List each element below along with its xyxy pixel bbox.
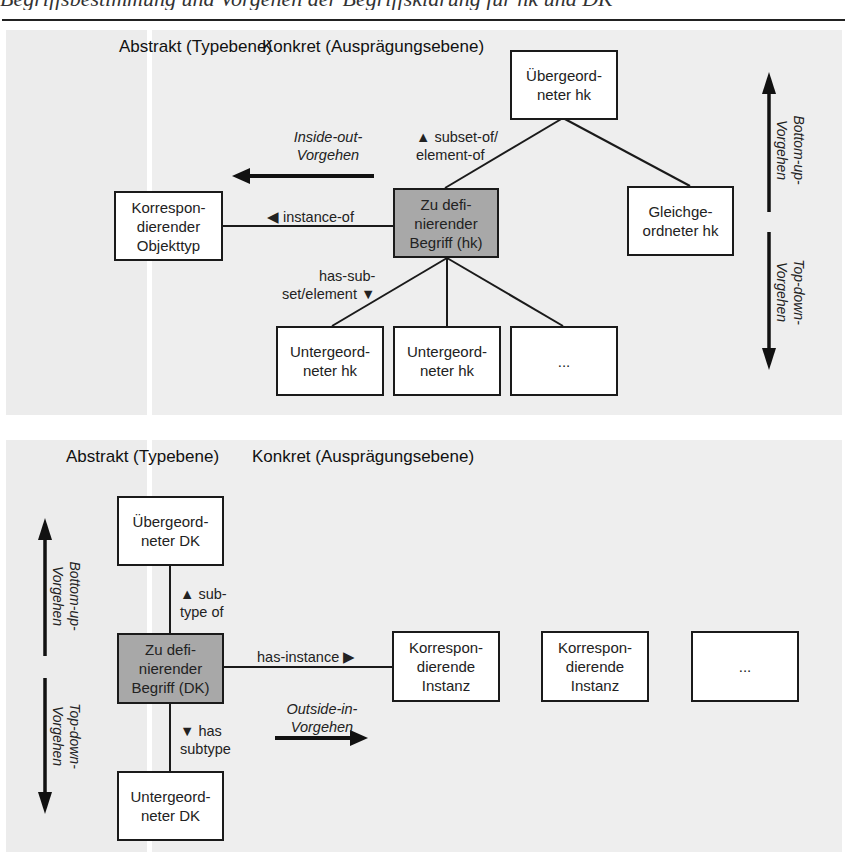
instance-box-more: ... bbox=[691, 631, 799, 702]
superordinate-hk-label: Übergeord- neter hk bbox=[526, 66, 602, 104]
bottom-heading-abstract: Abstrakt (Typebene) bbox=[66, 447, 219, 467]
bottom-heading-concrete: Konkret (Ausprägungsebene) bbox=[252, 447, 474, 467]
has-subset-relation-label: has-sub- set/element ▼ bbox=[282, 267, 375, 303]
top-bottom-up-label: Bottom-up- Vorgehen bbox=[773, 90, 807, 210]
sibling-hk-label: Gleichge- ordneter hk bbox=[643, 202, 719, 240]
bottom-bottom-up-label: Bottom-up- Vorgehen bbox=[49, 536, 83, 656]
focus-concept-dk-label: Zu defi- nierender Begriff (DK) bbox=[131, 640, 209, 697]
inside-out-approach-label: Inside-out- Vorgehen bbox=[268, 128, 388, 164]
instance-box-2: Korrespon- dierende Instanz bbox=[541, 631, 649, 702]
subordinate-hk-label-1: Untergeord- neter hk bbox=[290, 342, 370, 380]
subordinate-hk-label-2: Untergeord- neter hk bbox=[407, 342, 487, 380]
sibling-hk-box: Gleichge- ordneter hk bbox=[627, 186, 734, 256]
bottom-top-down-label: Top-down- Vorgehen bbox=[49, 676, 83, 796]
instance-of-relation-label: ◀ instance-of bbox=[267, 208, 354, 226]
subset-of-relation-label: ▲ subset-of/ element-of bbox=[416, 128, 498, 164]
top-heading-abstract: Abstrakt (Typebene) bbox=[119, 37, 272, 57]
focus-concept-dk-box: Zu defi- nierender Begriff (DK) bbox=[117, 633, 224, 704]
focus-concept-hk-label: Zu defi- nierender Begriff (hk) bbox=[409, 195, 482, 252]
subordinate-hk-box-1: Untergeord- neter hk bbox=[276, 326, 384, 396]
top-top-down-label: Top-down- Vorgehen bbox=[773, 232, 807, 352]
instance-label-1: Korrespon- dierende Instanz bbox=[409, 638, 483, 695]
subordinate-dk-box: Untergeord- neter DK bbox=[117, 771, 224, 841]
subordinate-hk-box-more: ... bbox=[510, 326, 618, 396]
focus-concept-hk-box: Zu defi- nierender Begriff (hk) bbox=[393, 188, 499, 258]
superordinate-hk-box: Übergeord- neter hk bbox=[510, 50, 618, 120]
subordinate-dk-label: Untergeord- neter DK bbox=[130, 787, 210, 825]
ellipsis-label: ... bbox=[558, 352, 571, 371]
instance-label-2: Korrespon- dierende Instanz bbox=[558, 638, 632, 695]
outside-in-approach-label: Outside-in- Vorgehen bbox=[262, 700, 382, 736]
ellipsis-label: ... bbox=[739, 657, 752, 676]
has-instance-relation-label: has-instance ▶ bbox=[257, 648, 355, 666]
top-heading-concrete: Konkret (Ausprägungsebene) bbox=[262, 37, 484, 57]
subordinate-hk-box-2: Untergeord- neter hk bbox=[393, 326, 501, 396]
superordinate-dk-label: Übergeord- neter DK bbox=[133, 512, 209, 550]
has-subtype-relation-label: ▼ has subtype bbox=[180, 722, 231, 758]
object-type-label: Korrespon- dierender Objekttyp bbox=[131, 198, 205, 255]
object-type-box: Korrespon- dierender Objekttyp bbox=[114, 191, 223, 261]
subtype-of-relation-label: ▲ sub- type of bbox=[180, 585, 227, 621]
instance-box-1: Korrespon- dierende Instanz bbox=[392, 631, 500, 702]
superordinate-dk-box: Übergeord- neter DK bbox=[117, 496, 224, 566]
